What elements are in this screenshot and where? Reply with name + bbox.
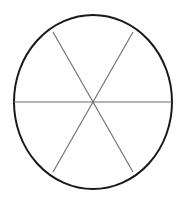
circle-sector-diagram: [0, 0, 187, 203]
figure-canvas: [0, 0, 187, 203]
